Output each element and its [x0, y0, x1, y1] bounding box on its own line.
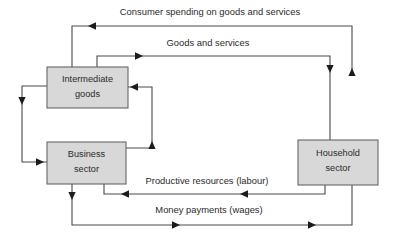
consumer-spending-arrow-up: [348, 68, 355, 76]
goods-and-services-arrow-right: [135, 52, 143, 59]
business-to-intermediate-arrow-left: [130, 83, 138, 90]
money-payments-arrow-right-mid: [172, 221, 180, 228]
edge-label-goods-and-services: Goods and services: [167, 37, 250, 48]
business-sector-box[interactable]: [47, 142, 126, 184]
intermediate-to-business-path: [22, 86, 47, 162]
flow-diagram-canvas: Intermediate goods Business sector House…: [0, 0, 394, 242]
business-to-intermediate-path: [126, 87, 152, 148]
goods-and-services-arrow-down: [326, 65, 333, 73]
consumer-spending-arrow-left: [88, 22, 96, 29]
node-intermediate-goods[interactable]: Intermediate goods: [47, 67, 128, 108]
edge-label-consumer-spending: Consumer spending on goods and services: [120, 6, 301, 17]
intermediate-goods-box[interactable]: [47, 67, 128, 108]
node-business-sector[interactable]: Business sector: [47, 142, 126, 184]
money-payments-arrow-down: [68, 192, 75, 200]
intermediate-goods-label-line2: goods: [75, 89, 100, 99]
business-sector-label-line1: Business: [68, 149, 106, 159]
intermediate-to-business-arrow-right: [36, 158, 44, 165]
money-payments-arrow-right-end: [308, 221, 316, 228]
edge-goods-and-services: [97, 52, 334, 140]
household-sector-label-line2: sector: [325, 163, 350, 173]
goods-and-services-path: [97, 56, 330, 140]
edge-business-to-intermediate: [126, 83, 156, 149]
intermediate-to-business-arrow-down: [18, 97, 25, 105]
business-to-intermediate-arrow-up: [148, 141, 155, 149]
circular-flow-diagram: Intermediate goods Business sector House…: [0, 0, 394, 242]
productive-resources-arrow-left-end: [121, 190, 129, 197]
intermediate-goods-label-line1: Intermediate: [62, 74, 113, 84]
productive-resources-arrow-left-mid: [240, 190, 248, 197]
edge-label-productive-resources: Productive resources (labour): [146, 175, 269, 186]
business-sector-label-line2: sector: [74, 164, 99, 174]
edge-intermediate-to-business: [18, 86, 47, 166]
edge-label-money-payments: Money payments (wages): [155, 204, 262, 215]
household-sector-label-line1: Household: [316, 148, 360, 158]
node-household-sector[interactable]: Household sector: [298, 140, 378, 185]
consumer-spending-path: [72, 26, 352, 72]
